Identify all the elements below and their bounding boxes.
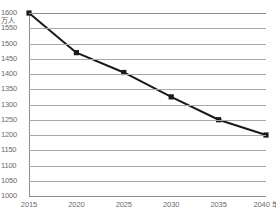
x-tick-value: 2035	[210, 200, 226, 209]
gridline-y-1450	[29, 59, 266, 60]
x-axis-unit-suffix: 年	[270, 201, 276, 209]
x-tick-label-2040: 2040 年	[253, 200, 276, 210]
gridline-y-1000	[29, 196, 266, 197]
x-axis-tick-labels: 201520202025203020352040 年	[0, 200, 276, 217]
y-tick-label-1150: 1150	[1, 146, 27, 154]
x-tick-value: 2040	[253, 200, 269, 209]
x-tick-label-2025: 2025	[116, 200, 132, 209]
y-tick-label-1550: 1550	[1, 24, 27, 32]
gridline-y-1150	[29, 150, 266, 151]
y-tick-label-1350: 1350	[1, 85, 27, 93]
data-point-2020	[74, 50, 79, 55]
x-tick-label-2030: 2030	[163, 200, 179, 209]
y-tick-label-1050: 1050	[1, 177, 27, 185]
y-axis-unit-label: 万人	[1, 17, 15, 25]
x-tick-label-2020: 2020	[68, 200, 84, 209]
y-tick-label-1000: 1000	[1, 192, 27, 200]
gridline-y-1250	[29, 120, 266, 121]
y-tick-label-1600: 1600	[1, 9, 27, 17]
gridline-y-1500	[29, 44, 266, 45]
y-tick-label-1300: 1300	[1, 101, 27, 109]
y-axis-tick-labels: 1600155015001450140013501300125012001150…	[0, 0, 27, 217]
plot-area	[29, 13, 266, 196]
x-tick-value: 2015	[21, 200, 37, 209]
gridline-y-1300	[29, 105, 266, 106]
gridline-y-1400	[29, 74, 266, 75]
gridline-y-1100	[29, 166, 266, 167]
gridline-y-1600	[29, 13, 266, 14]
y-tick-label-1250: 1250	[1, 116, 27, 124]
data-point-2030	[169, 94, 174, 99]
gridline-y-1200	[29, 135, 266, 136]
x-tick-value: 2025	[116, 200, 132, 209]
line-chart: 1600155015001450140013501300125012001150…	[0, 0, 276, 217]
y-tick-label-1500: 1500	[1, 40, 27, 48]
y-tick-label-1450: 1450	[1, 55, 27, 63]
x-tick-label-2015: 2015	[21, 200, 37, 209]
y-tick-label-1400: 1400	[1, 70, 27, 78]
y-tick-label-1200: 1200	[1, 131, 27, 139]
gridline-y-1350	[29, 89, 266, 90]
gridline-y-1050	[29, 181, 266, 182]
gridline-y-1550	[29, 28, 266, 29]
x-tick-label-2035: 2035	[210, 200, 226, 209]
x-tick-value: 2020	[68, 200, 84, 209]
x-tick-value: 2030	[163, 200, 179, 209]
y-tick-label-1100: 1100	[1, 162, 27, 170]
